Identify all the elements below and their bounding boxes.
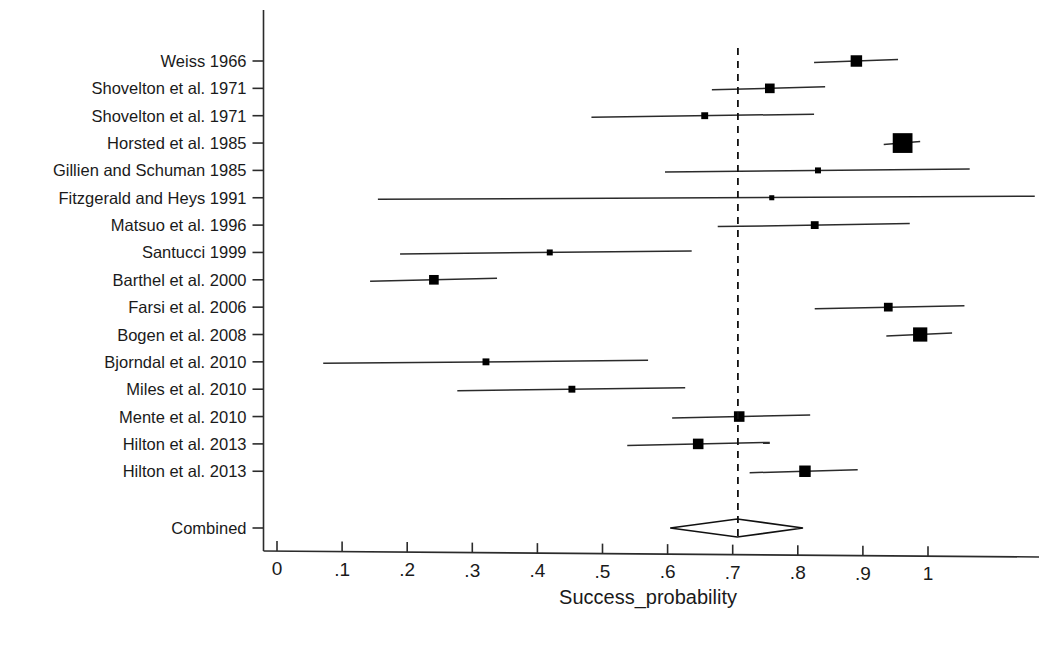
point-estimate-marker <box>547 249 553 255</box>
forest-row: Bogen et al. 2008 <box>117 326 952 344</box>
point-estimate-marker <box>429 275 439 285</box>
confidence-interval-line <box>378 196 1035 199</box>
forest-plot-svg: Weiss 1966Shovelton et al. 1971Shovelton… <box>0 0 1039 646</box>
point-estimate-marker <box>799 466 810 477</box>
x-axis-line <box>264 551 1039 557</box>
study-label: Mente et al. 2010 <box>119 408 247 426</box>
forest-row: Shovelton et al. 1971 <box>91 79 825 97</box>
x-axis-tick-label: .4 <box>529 560 545 581</box>
x-axis-title: Success_probability <box>559 586 737 609</box>
forest-row: Shovelton et al. 1971 <box>91 107 814 125</box>
study-label: Hilton et al. 2013 <box>123 462 247 480</box>
forest-row: Mente et al. 2010 <box>119 408 810 426</box>
study-label: Matsuo et al. 1996 <box>111 216 247 234</box>
forest-row: Gillien and Schuman 1985 <box>53 161 970 179</box>
forest-row: Weiss 1966 <box>161 52 898 70</box>
forest-plot: Weiss 1966Shovelton et al. 1971Shovelton… <box>0 0 1039 646</box>
x-axis-tick-label: .1 <box>334 559 350 580</box>
x-axis-tick-label: 0 <box>272 558 283 579</box>
forest-row: Hilton et al. 2013 <box>123 435 770 453</box>
forest-row: Bjorndal et al. 2010 <box>104 353 648 371</box>
study-label: Barthel et al. 2000 <box>113 271 247 289</box>
point-estimate-marker <box>693 439 704 450</box>
point-estimate-marker <box>913 327 927 341</box>
x-axis: 0.1.2.3.4.5.6.7.8.91 <box>264 541 1039 584</box>
forest-row: Fitzgerald and Heys 1991 <box>58 189 1034 207</box>
forest-row: Horsted et al. 1985 <box>107 133 920 153</box>
x-axis-tick-label: .7 <box>725 562 741 583</box>
forest-row: Miles et al. 2010 <box>126 380 685 398</box>
confidence-interval-line <box>400 251 692 254</box>
x-axis-tick-label: .6 <box>660 561 676 582</box>
x-axis-tick-label: .9 <box>855 563 871 584</box>
study-label: Hilton et al. 2013 <box>123 435 247 453</box>
study-label: Weiss 1966 <box>161 52 247 70</box>
study-label: Fitzgerald and Heys 1991 <box>58 189 246 207</box>
point-estimate-marker <box>884 303 893 312</box>
forest-row: Farsi et al. 2006 <box>128 298 964 316</box>
point-estimate-marker <box>701 112 708 119</box>
study-label: Shovelton et al. 1971 <box>91 79 246 97</box>
point-estimate-marker <box>851 55 862 66</box>
study-label: Santucci 1999 <box>142 243 247 261</box>
forest-row: Santucci 1999 <box>142 243 692 261</box>
point-estimate-marker <box>893 133 913 153</box>
study-label: Miles et al. 2010 <box>126 380 246 398</box>
x-axis-tick-label: .8 <box>790 562 806 583</box>
x-axis-tick-label: .3 <box>464 560 480 581</box>
study-rows: Weiss 1966Shovelton et al. 1971Shovelton… <box>53 52 1035 480</box>
forest-row: Barthel et al. 2000 <box>113 271 497 289</box>
x-axis-tick-label: .2 <box>399 559 415 580</box>
combined-row: Combined <box>171 519 803 537</box>
study-label: Gillien and Schuman 1985 <box>53 161 247 179</box>
point-estimate-marker <box>815 167 821 173</box>
study-label: Horsted et al. 1985 <box>107 134 246 152</box>
forest-row: Hilton et al. 2013 <box>123 462 858 480</box>
point-estimate-marker <box>568 386 575 393</box>
point-estimate-marker <box>765 84 775 94</box>
point-estimate-marker <box>811 221 819 229</box>
point-estimate-marker <box>769 195 774 200</box>
forest-row: Matsuo et al. 1996 <box>111 216 910 234</box>
combined-label: Combined <box>171 519 246 537</box>
x-axis-tick-label: .5 <box>595 561 611 582</box>
point-estimate-marker <box>483 358 490 365</box>
study-label: Shovelton et al. 1971 <box>91 107 246 125</box>
combined-diamond <box>670 519 803 537</box>
point-estimate-marker <box>734 411 745 422</box>
study-label: Farsi et al. 2006 <box>128 298 246 316</box>
x-axis-tick-label: 1 <box>923 563 934 584</box>
study-label: Bjorndal et al. 2010 <box>104 353 246 371</box>
study-label: Bogen et al. 2008 <box>117 326 246 344</box>
